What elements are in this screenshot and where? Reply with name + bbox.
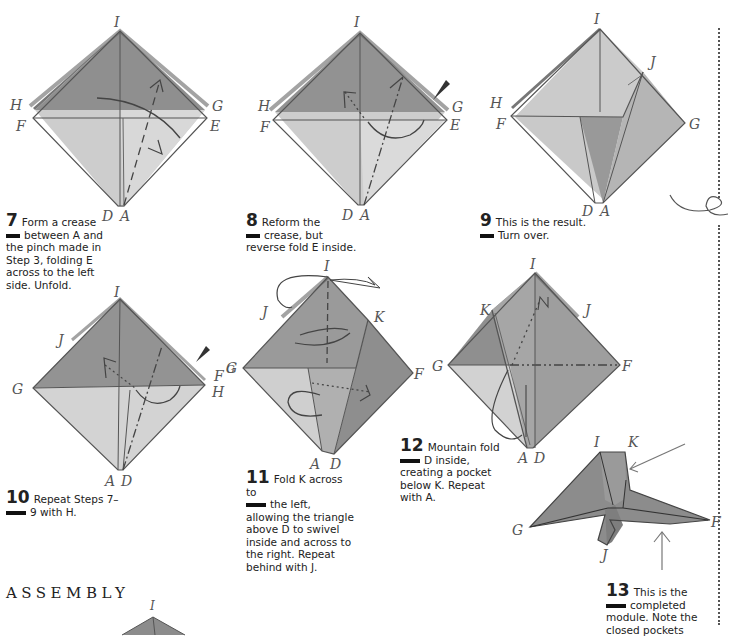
step-number: 13 <box>606 583 630 597</box>
label-g: G <box>689 116 700 132</box>
step-marker-bar <box>6 511 26 515</box>
step-8-diagram: I H F G E D A <box>240 0 480 215</box>
assembly-diagram: I <box>110 595 210 630</box>
label-k: K <box>479 302 492 318</box>
label-f: F <box>413 366 425 382</box>
step-number: 9 <box>480 213 492 227</box>
label-h: H <box>489 95 503 111</box>
label-g: G <box>452 99 463 115</box>
label-g: G <box>226 360 237 376</box>
label-i: I <box>593 11 600 27</box>
step-13-diagram: I K G F J <box>490 420 730 580</box>
step-marker-bar <box>480 234 494 238</box>
label-j: J <box>647 54 657 70</box>
label-j: J <box>599 547 609 563</box>
label-d: D <box>120 473 132 489</box>
label-j: J <box>259 304 269 320</box>
label-i: I <box>529 256 536 272</box>
step-number: 8 <box>246 213 258 227</box>
step-marker-bar <box>246 503 266 507</box>
step-9-diagram: I J H F G D A <box>470 0 730 215</box>
divider-upper <box>718 28 720 198</box>
step-10-diagram: I J G F G H A D <box>0 270 240 480</box>
label-g: G <box>212 98 223 114</box>
step-number: 12 <box>400 438 424 452</box>
label-a: A <box>118 208 130 224</box>
step-10-instruction: 10Repeat Steps 7– 9 with H. <box>6 490 126 518</box>
label-g: G <box>432 358 443 374</box>
step-number: 10 <box>6 490 30 504</box>
label-j: J <box>55 332 65 348</box>
step-13-instruction: 13This is the completed module. Note the… <box>606 583 716 636</box>
label-g: G <box>512 522 523 538</box>
label-i: I <box>353 14 360 30</box>
label-i: I <box>323 258 330 274</box>
label-f: F <box>710 514 722 530</box>
label-a: A <box>103 473 115 489</box>
label-h: H <box>257 98 271 114</box>
step-marker-bar <box>606 604 626 608</box>
label-h: H <box>9 97 23 113</box>
label-j: J <box>582 302 592 318</box>
label-g: G <box>12 381 23 397</box>
label-h: H <box>211 384 225 400</box>
label-i: I <box>593 434 600 450</box>
step-marker-bar <box>246 234 260 238</box>
step-8-instruction: 8Reform the crease, but reverse fold E i… <box>246 213 366 254</box>
label-f: F <box>15 118 27 134</box>
label-i: I <box>113 14 120 30</box>
label-f: F <box>259 119 271 135</box>
step-number: 11 <box>246 470 270 484</box>
step-12-instruction: 12Mountain fold D inside, creating a poc… <box>400 438 500 504</box>
label-e: E <box>449 117 460 133</box>
step-7-diagram: I H F G E D A <box>0 0 240 215</box>
label-f: F <box>495 116 507 132</box>
label-i: I <box>113 284 120 300</box>
label-e: E <box>209 118 220 134</box>
step-11-instruction: 11Fold K across to the left, allowing th… <box>246 470 356 573</box>
label-k: K <box>627 434 640 450</box>
label-f: F <box>621 358 633 374</box>
label-f: F <box>213 368 225 384</box>
label-i: I <box>149 599 155 613</box>
label-k: K <box>373 309 386 325</box>
label-a: A <box>598 203 610 219</box>
step-number: 7 <box>6 213 18 227</box>
step-marker-bar <box>400 459 420 463</box>
step-marker-bar <box>6 234 20 238</box>
step-9-instruction: 9This is the result. Turn over. <box>480 213 595 241</box>
